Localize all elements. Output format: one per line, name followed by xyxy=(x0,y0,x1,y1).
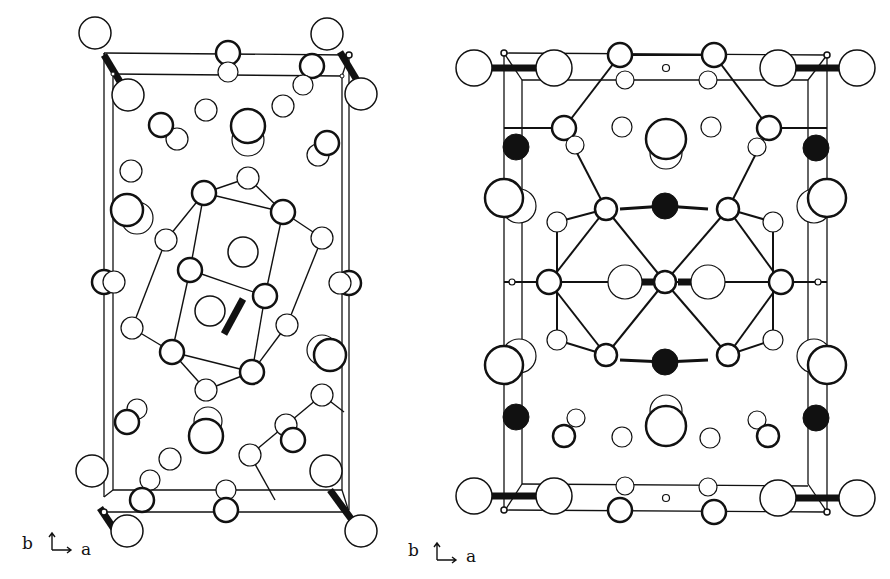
atom xyxy=(702,43,726,67)
right-projection-panel xyxy=(456,43,875,524)
atom xyxy=(456,50,492,86)
atom xyxy=(763,330,783,350)
filled-atom xyxy=(803,135,829,161)
atom xyxy=(824,52,830,58)
atom xyxy=(120,160,142,182)
atom xyxy=(345,78,377,110)
atom xyxy=(608,265,642,299)
atom xyxy=(346,52,352,58)
atom xyxy=(717,344,739,366)
atom xyxy=(509,279,515,285)
atom xyxy=(271,200,295,224)
atom xyxy=(103,271,125,293)
atom xyxy=(178,258,202,282)
atom xyxy=(824,509,830,515)
atom xyxy=(218,62,238,82)
atom xyxy=(616,477,634,495)
atom xyxy=(717,198,739,220)
filled-atom xyxy=(503,404,529,430)
atom xyxy=(76,455,108,487)
atom xyxy=(553,425,575,447)
atom xyxy=(815,279,821,285)
atom xyxy=(691,265,725,299)
atom xyxy=(345,515,377,547)
atom xyxy=(595,198,617,220)
atom xyxy=(195,296,225,326)
atom xyxy=(763,212,783,232)
atom xyxy=(79,17,111,49)
atom xyxy=(115,410,139,434)
atom xyxy=(214,498,238,522)
atom xyxy=(340,74,344,78)
atom xyxy=(839,480,875,516)
atom xyxy=(757,116,781,140)
atom xyxy=(536,50,572,86)
atom xyxy=(757,425,779,447)
atom xyxy=(646,119,686,159)
atom xyxy=(300,54,324,78)
atom xyxy=(769,270,793,294)
atom xyxy=(281,428,305,452)
atom xyxy=(111,194,143,226)
atom xyxy=(654,271,676,293)
atom xyxy=(314,339,346,371)
atom xyxy=(155,229,177,251)
filled-atom xyxy=(652,193,678,219)
atom xyxy=(537,270,561,294)
atom xyxy=(111,515,143,547)
atom xyxy=(699,71,717,89)
atom xyxy=(608,43,632,67)
atom xyxy=(228,237,258,267)
crystal-structure-figure xyxy=(0,0,890,579)
atom xyxy=(501,50,507,56)
atom xyxy=(760,480,796,516)
filled-atom xyxy=(503,134,529,160)
atom xyxy=(566,136,584,154)
right-axis-b-label: b xyxy=(408,540,419,560)
atom xyxy=(701,117,721,137)
atom xyxy=(237,167,259,189)
atom xyxy=(121,317,143,339)
atom xyxy=(293,75,313,95)
atom xyxy=(699,478,717,496)
atom xyxy=(700,428,720,448)
right-axis-a-label: a xyxy=(466,546,476,566)
atom xyxy=(101,509,107,515)
atom xyxy=(111,72,115,76)
atom xyxy=(311,227,333,249)
atom xyxy=(760,50,796,86)
atom xyxy=(272,95,294,117)
atom xyxy=(195,99,217,121)
atom xyxy=(130,488,154,512)
atom xyxy=(616,71,634,89)
atom xyxy=(663,65,670,72)
atom xyxy=(329,272,351,294)
atom xyxy=(663,495,670,502)
atom xyxy=(536,478,572,514)
atom xyxy=(240,360,264,384)
atom xyxy=(112,79,144,111)
atom xyxy=(456,478,492,514)
atom xyxy=(192,181,216,205)
bond xyxy=(287,238,322,325)
atom xyxy=(595,344,617,366)
atom xyxy=(839,50,875,86)
atom xyxy=(547,330,567,350)
atom xyxy=(501,507,507,513)
atom xyxy=(808,179,846,217)
left-axis-a-label: a xyxy=(81,539,91,559)
atom xyxy=(567,409,585,427)
atom xyxy=(239,444,261,466)
filled-atom xyxy=(652,349,678,375)
filled-atom xyxy=(803,405,829,431)
thick-bond xyxy=(224,299,243,334)
atom xyxy=(276,314,298,336)
atom xyxy=(189,419,223,453)
left-projection-panel xyxy=(76,17,377,547)
atom xyxy=(149,113,173,137)
atom xyxy=(310,455,342,487)
atom xyxy=(159,448,181,470)
atom xyxy=(311,384,333,406)
atom xyxy=(547,212,567,232)
right-axis-arrow-icon xyxy=(433,540,463,566)
